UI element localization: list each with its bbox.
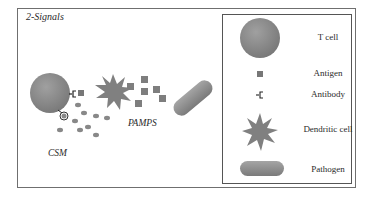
legend-pathogen-icon	[240, 161, 284, 176]
legend-t-cell-icon	[240, 18, 280, 58]
legend-label-t-cell: T cell	[303, 32, 353, 43]
legend-dendritic-cell-icon	[242, 113, 278, 151]
legend-label-antibody: Antibody	[303, 89, 353, 100]
legend-label-antigen: Antigen	[303, 68, 353, 79]
legend-label-pathogen: Pathogen	[303, 164, 353, 175]
legend-antigen-icon	[257, 71, 263, 77]
legend-label-dendritic-cell: Dendritic cell	[303, 124, 353, 135]
legend-antibody-icon	[256, 92, 263, 98]
